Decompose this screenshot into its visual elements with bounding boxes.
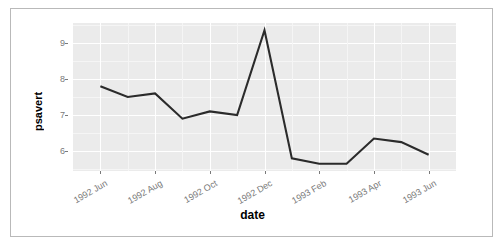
plot-area: 6789 1992 Jun1992 Aug1992 Oct1992 Dec199… bbox=[11, 9, 494, 238]
y-tick-mark bbox=[65, 79, 68, 80]
x-tick-mark bbox=[210, 171, 211, 174]
figure-frame: 6789 1992 Jun1992 Aug1992 Oct1992 Dec199… bbox=[10, 8, 493, 237]
x-tick-mark bbox=[265, 171, 266, 174]
x-tick-mark bbox=[374, 171, 375, 174]
x-tick-mark bbox=[429, 171, 430, 174]
y-tick-label: 6 bbox=[43, 146, 65, 156]
x-tick-mark bbox=[319, 171, 320, 174]
y-axis-title: psavert bbox=[30, 71, 46, 151]
y-tick-mark bbox=[65, 43, 68, 44]
psavert-line bbox=[100, 30, 428, 164]
series-line-layer bbox=[73, 23, 456, 171]
x-tick-mark bbox=[155, 171, 156, 174]
y-tick-label: 7 bbox=[43, 110, 65, 120]
y-tick-mark bbox=[65, 151, 68, 152]
x-tick-mark bbox=[100, 171, 101, 174]
y-tick-label: 9 bbox=[43, 38, 65, 48]
chart-panel bbox=[73, 23, 456, 171]
x-axis-title: date bbox=[11, 208, 494, 222]
y-tick-label: 8 bbox=[43, 74, 65, 84]
y-tick-mark bbox=[65, 115, 68, 116]
